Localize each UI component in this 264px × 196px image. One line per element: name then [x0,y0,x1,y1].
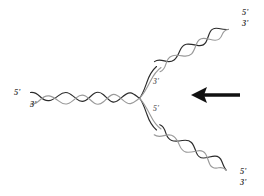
upper-duplex-strand-dark [154,23,228,70]
upper-end-three-prime-label: 3' [242,19,249,28]
upper-duplex-strand-light [156,25,230,72]
fork-upper-three-prime-label: 3' [153,78,159,86]
lower-end-five-prime-label: 5' [240,167,247,176]
dna-replication-fork-figure: 5' 3' 3' 5' 5' 3' 5' 3' [0,0,264,196]
parent-three-prime-label: 3' [30,100,37,109]
parent-duplex [31,92,140,104]
lower-duplex-strand-dark [155,124,229,171]
fork-diagram-svg [0,0,264,196]
fork-lower-strand-light [140,98,162,129]
lower-daughter-duplex [154,124,230,173]
parent-five-prime-label: 5' [14,88,21,97]
lower-duplex-strand-light [154,127,228,174]
fork-direction-arrow [191,87,240,103]
fork-lower-strand-dark [140,98,157,130]
lower-end-three-prime-label: 3' [240,178,247,187]
upper-end-five-prime-label: 5' [242,8,249,17]
fork-lower-five-prime-label: 5' [153,105,159,113]
upper-daughter-duplex [154,23,230,72]
